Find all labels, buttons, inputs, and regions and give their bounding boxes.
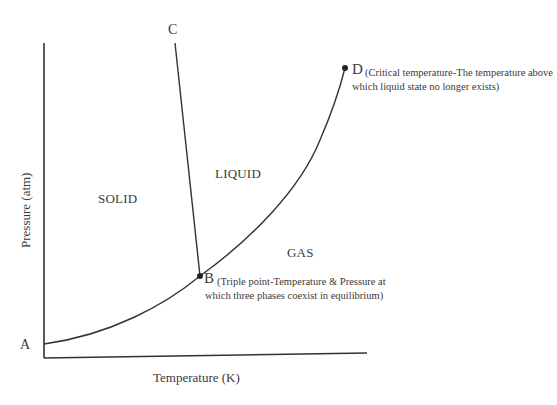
point-b-label: B <box>204 270 214 287</box>
triple-point-note-2: which three phases coexist in equilibriu… <box>205 289 383 303</box>
region-solid-label: SOLID <box>98 191 137 207</box>
triple-point-note-1: (Triple point-Temperature & Pressure at <box>217 275 386 289</box>
point-c-label: C <box>168 22 177 38</box>
x-axis <box>44 353 367 358</box>
region-liquid-label: LIQUID <box>215 166 261 182</box>
critical-point-marker <box>342 65 348 71</box>
point-d-label: D <box>352 61 363 78</box>
y-axis-label: Pressure (atm) <box>18 173 34 248</box>
triple-point-marker <box>197 273 203 279</box>
critical-point-note-1: (Critical temperature-The temperature ab… <box>365 66 553 80</box>
critical-point-note-2: which liquid state no longer exists) <box>352 80 499 94</box>
phase-diagram <box>0 0 557 405</box>
fusion-line <box>175 43 200 276</box>
point-a-label: A <box>20 337 30 353</box>
x-axis-label: Temperature (K) <box>153 370 240 386</box>
region-gas-label: GAS <box>287 245 314 261</box>
